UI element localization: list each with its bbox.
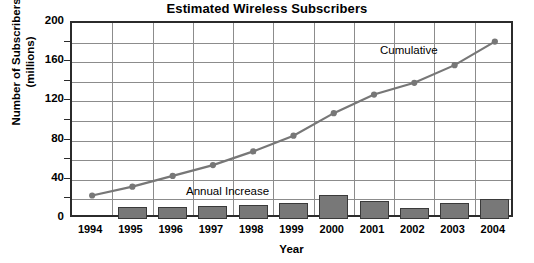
data-point-marker <box>492 39 498 45</box>
data-point-marker <box>170 173 176 179</box>
x-axis-tick-label: 1994 <box>68 223 112 235</box>
data-point-marker <box>371 91 377 97</box>
x-axis-tick-label: 1998 <box>229 223 273 235</box>
data-point-marker <box>129 184 135 190</box>
x-axis-tick-label: 1997 <box>189 223 233 235</box>
x-axis-tick-label: 2002 <box>390 223 434 235</box>
y-axis-tick-label: 80 <box>24 132 64 144</box>
y-axis-tick-label: 120 <box>24 92 64 104</box>
data-point-marker <box>290 133 296 139</box>
y-axis-tick-label: 40 <box>24 171 64 183</box>
cumulative-markers <box>89 39 498 199</box>
y-axis-tick-label: 160 <box>24 53 64 65</box>
y-axis-tick-label: 200 <box>24 14 64 26</box>
x-axis-tick-label: 2001 <box>350 223 394 235</box>
plot-area: Cumulative Annual Increase <box>70 21 513 217</box>
x-axis-tick-label: 2004 <box>471 223 515 235</box>
data-point-marker <box>210 162 216 168</box>
data-point-marker <box>89 192 95 198</box>
x-axis-tick-label: 1995 <box>108 223 152 235</box>
x-axis-tick-label: 1999 <box>270 223 314 235</box>
chart-container: Estimated Wireless Subscribers Number of… <box>0 0 534 263</box>
line-series-cumulative <box>72 23 515 219</box>
data-point-marker <box>331 110 337 116</box>
data-point-marker <box>411 80 417 86</box>
x-axis-title: Year <box>70 243 513 255</box>
x-axis-tick-label: 2003 <box>431 223 475 235</box>
x-axis-tick-label: 2000 <box>310 223 354 235</box>
cumulative-line-path <box>92 42 495 196</box>
y-axis-tick-label: 0 <box>24 210 64 222</box>
data-point-marker <box>250 148 256 154</box>
y-axis-title-line1: Number of Subscribers <box>9 0 23 148</box>
cumulative-label: Cumulative <box>380 44 438 56</box>
annual-increase-label: Annual Increase <box>186 185 269 197</box>
data-point-marker <box>451 62 457 68</box>
x-axis-tick-label: 1996 <box>149 223 193 235</box>
chart-title: Estimated Wireless Subscribers <box>0 1 534 16</box>
